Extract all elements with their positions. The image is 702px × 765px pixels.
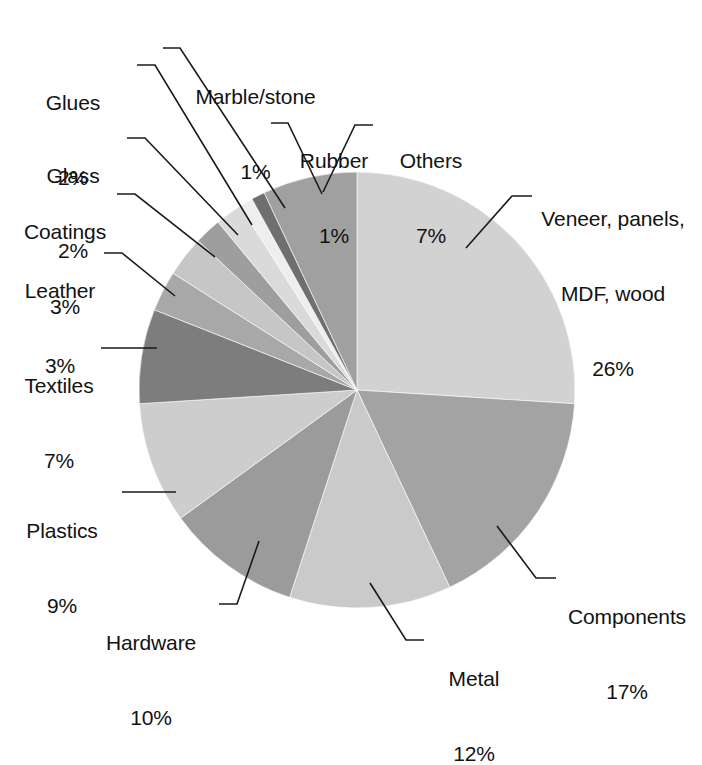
label-plastics-name: Plastics	[0, 518, 124, 543]
label-components: Components 17%	[552, 554, 702, 754]
label-metal-name: Metal	[424, 666, 524, 691]
label-hardware-name: Hardware	[82, 630, 220, 655]
label-components-value: 17%	[552, 679, 702, 704]
label-hardware: Hardware 10%	[82, 580, 220, 765]
label-veneer-name-line1: Veneer, panels,	[524, 206, 702, 231]
label-others-name: Others	[376, 148, 486, 173]
label-others-value: 7%	[376, 223, 486, 248]
label-others: Others 7%	[376, 98, 486, 298]
label-glues-name: Glues	[8, 90, 138, 115]
label-textiles-name: Textiles	[0, 373, 118, 398]
label-metal-value: 12%	[424, 741, 524, 765]
label-veneer-value: 26%	[524, 356, 702, 381]
label-veneer: Veneer, panels, MDF, wood 26%	[524, 156, 702, 431]
label-leather-name: Leather	[0, 278, 120, 303]
label-hardware-value: 10%	[82, 705, 220, 730]
label-metal: Metal 12%	[424, 616, 524, 765]
label-components-name: Components	[552, 604, 702, 629]
label-veneer-name-line2: MDF, wood	[524, 281, 702, 306]
